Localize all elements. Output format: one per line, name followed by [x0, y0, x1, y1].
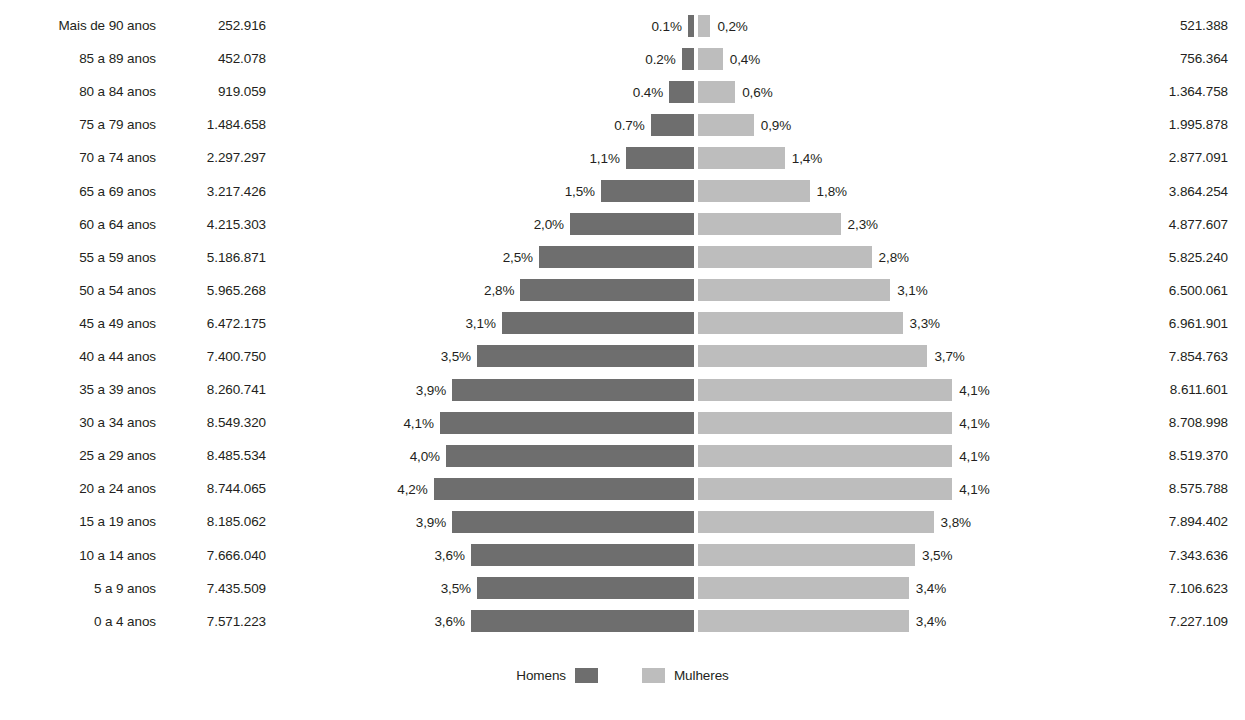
bar-area: 2,8%3,1% [0, 274, 1245, 307]
bar-area: 3,5%3,7% [0, 340, 1245, 373]
pyramid-row: 85 a 89 anos452.0780.2%0,4%756.364 [0, 42, 1245, 75]
pyramid-row: 15 a 19 anos8.185.0623,9%3,8%7.894.402 [0, 505, 1245, 538]
men-percent-label: 1,1% [550, 150, 620, 165]
women-percent-label: 3,8% [941, 514, 971, 529]
bar-area: 4,0%4,1% [0, 439, 1245, 472]
women-percent-label: 1,8% [817, 184, 847, 199]
bar-men [601, 180, 694, 202]
men-percent-label: 0.7% [575, 117, 645, 132]
bar-men [477, 577, 694, 599]
pyramid-row: 55 a 59 anos5.186.8712,5%2,8%5.825.240 [0, 241, 1245, 274]
bar-area: 0.7%0,9% [0, 108, 1245, 141]
bar-women [698, 412, 952, 434]
pyramid-row: 0 a 4 anos7.571.2233,6%3,4%7.227.109 [0, 605, 1245, 638]
pyramid-row: 40 a 44 anos7.400.7503,5%3,7%7.854.763 [0, 340, 1245, 373]
women-percent-label: 4,1% [959, 448, 989, 463]
bar-women [698, 511, 934, 533]
bar-women [698, 312, 903, 334]
bar-area: 3,9%4,1% [0, 373, 1245, 406]
pyramid-row: 35 a 39 anos8.260.7413,9%4,1%8.611.601 [0, 373, 1245, 406]
bar-women [698, 180, 810, 202]
bar-women [698, 279, 890, 301]
women-percent-label: 1,4% [792, 150, 822, 165]
women-count-value: 6.500.061 [1060, 283, 1228, 298]
men-percent-label: 4,1% [364, 415, 434, 430]
bar-men [477, 345, 694, 367]
women-count-value: 4.877.607 [1060, 217, 1228, 232]
pyramid-row: 45 a 49 anos6.472.1753,1%3,3%6.961.901 [0, 307, 1245, 340]
chart-legend: Homens Mulheres [0, 668, 1245, 683]
bar-men [446, 445, 694, 467]
women-count-value: 7.894.402 [1060, 514, 1228, 529]
men-percent-label: 4,0% [370, 448, 440, 463]
bar-women [698, 114, 754, 136]
bar-area: 0.1%0,2% [0, 9, 1245, 42]
pyramid-rows: Mais de 90 anos252.9160.1%0,2%521.38885 … [0, 9, 1245, 638]
men-percent-label: 3,5% [401, 349, 471, 364]
women-count-value: 8.519.370 [1060, 448, 1228, 463]
men-percent-label: 4,2% [358, 481, 428, 496]
men-percent-label: 1,5% [525, 184, 595, 199]
bar-area: 2,0%2,3% [0, 208, 1245, 241]
women-percent-label: 2,8% [879, 250, 909, 265]
men-percent-label: 3,6% [395, 548, 465, 563]
bar-area: 2,5%2,8% [0, 241, 1245, 274]
pyramid-row: 60 a 64 anos4.215.3032,0%2,3%4.877.607 [0, 208, 1245, 241]
bar-men [520, 279, 694, 301]
women-count-value: 7.106.623 [1060, 581, 1228, 596]
women-count-value: 756.364 [1060, 51, 1228, 66]
bar-area: 3,5%3,4% [0, 572, 1245, 605]
women-percent-label: 2,3% [848, 217, 878, 232]
women-count-value: 1.995.878 [1060, 117, 1228, 132]
women-count-value: 8.611.601 [1060, 382, 1228, 397]
women-percent-label: 0,2% [717, 18, 747, 33]
women-count-value: 5.825.240 [1060, 250, 1228, 265]
bar-men [539, 246, 694, 268]
bar-women [698, 15, 710, 37]
bar-men [570, 213, 694, 235]
bar-men [669, 81, 694, 103]
legend-item-homens: Homens [516, 668, 598, 683]
men-percent-label: 2,0% [494, 217, 564, 232]
bar-men [440, 412, 694, 434]
bar-men [682, 48, 694, 70]
bar-area: 1,5%1,8% [0, 174, 1245, 207]
bar-women [698, 379, 952, 401]
women-percent-label: 0,6% [742, 84, 772, 99]
men-percent-label: 0.1% [612, 18, 682, 33]
women-percent-label: 3,1% [897, 283, 927, 298]
pyramid-row: 25 a 29 anos8.485.5344,0%4,1%8.519.370 [0, 439, 1245, 472]
bar-men [452, 511, 694, 533]
legend-label-homens: Homens [516, 668, 566, 683]
bar-men [502, 312, 694, 334]
women-percent-label: 4,1% [959, 382, 989, 397]
bar-area: 3,1%3,3% [0, 307, 1245, 340]
bar-men [626, 147, 694, 169]
bar-area: 3,6%3,4% [0, 605, 1245, 638]
bar-men [452, 379, 694, 401]
population-pyramid-chart: Mais de 90 anos252.9160.1%0,2%521.38885 … [0, 0, 1245, 720]
women-count-value: 3.864.254 [1060, 184, 1228, 199]
women-percent-label: 3,7% [934, 349, 964, 364]
pyramid-row: 70 a 74 anos2.297.2971,1%1,4%2.877.091 [0, 141, 1245, 174]
bar-men [471, 544, 694, 566]
pyramid-row: 20 a 24 anos8.744.0654,2%4,1%8.575.788 [0, 472, 1245, 505]
women-count-value: 7.854.763 [1060, 349, 1228, 364]
bar-area: 4,2%4,1% [0, 472, 1245, 505]
men-percent-label: 3,5% [401, 581, 471, 596]
pyramid-row: 75 a 79 anos1.484.6580.7%0,9%1.995.878 [0, 108, 1245, 141]
women-percent-label: 0,9% [761, 117, 791, 132]
men-percent-label: 0.4% [593, 84, 663, 99]
bar-area: 3,6%3,5% [0, 539, 1245, 572]
bar-women [698, 577, 909, 599]
bar-women [698, 345, 927, 367]
bar-men [471, 610, 694, 632]
bar-women [698, 81, 735, 103]
pyramid-row: 30 a 34 anos8.549.3204,1%4,1%8.708.998 [0, 406, 1245, 439]
bar-women [698, 213, 841, 235]
pyramid-row: 5 a 9 anos7.435.5093,5%3,4%7.106.623 [0, 572, 1245, 605]
men-percent-label: 0.2% [606, 51, 676, 66]
bar-area: 0.4%0,6% [0, 75, 1245, 108]
pyramid-row: 80 a 84 anos919.0590.4%0,6%1.364.758 [0, 75, 1245, 108]
bar-women [698, 610, 909, 632]
